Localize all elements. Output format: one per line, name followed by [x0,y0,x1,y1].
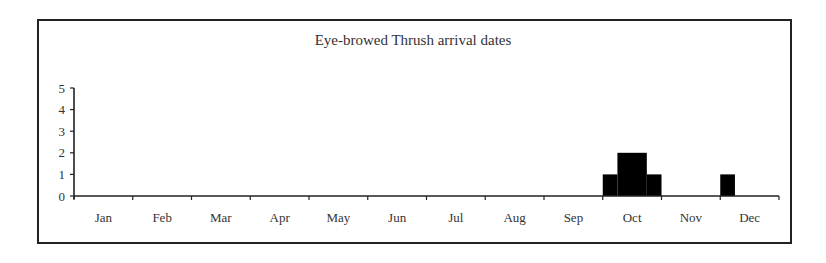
x-tick-label-may: May [326,210,350,225]
x-tick-label-sep: Sep [564,210,584,225]
x-tick-label-mar: Mar [210,210,232,225]
x-tick-label-dec: Dec [739,210,760,225]
y-tick-label: 3 [59,124,66,139]
axes [74,88,779,199]
chart-plot-area: 012345 JanFebMarAprMayJunJulAugSepOctNov… [0,0,826,263]
x-tick-label-feb: Feb [152,210,172,225]
x-tick-label-jul: Jul [448,210,464,225]
y-axis-ticks: 012345 [59,81,75,204]
x-tick-label-nov: Nov [680,210,703,225]
x-tick-label-aug: Aug [503,210,526,225]
bar-mid-oct [617,153,646,196]
bar-late-oct [647,174,662,196]
y-tick-label: 2 [59,145,66,160]
x-axis-ticks: JanFebMarAprMayJunJulAugSepOctNovDec [74,196,779,225]
y-tick-label: 1 [59,167,66,182]
y-tick-label: 4 [59,102,66,117]
x-tick-label-apr: Apr [270,210,291,225]
bars [603,153,735,196]
y-tick-label: 0 [59,189,66,204]
bar-early-dec [720,174,735,196]
x-tick-label-jan: Jan [95,210,113,225]
x-tick-label-oct: Oct [623,210,642,225]
y-tick-label: 5 [59,81,66,96]
x-tick-label-jun: Jun [388,210,407,225]
bar-early-oct [603,174,618,196]
